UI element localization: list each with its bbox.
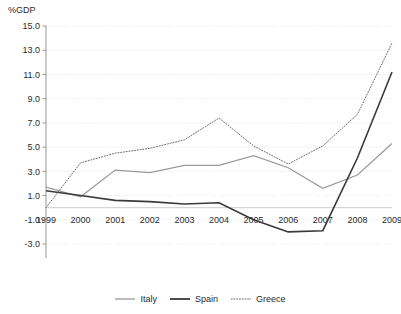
- line-chart: %GDP -3.0-1.01.03.05.07.09.011.013.015.0…: [0, 0, 401, 314]
- data-series: [46, 43, 392, 232]
- plot-area: -3.0-1.01.03.05.07.09.011.013.015.0 1999…: [0, 0, 401, 314]
- y-tick-label: 5.0: [27, 142, 40, 152]
- x-tick-label: 2002: [140, 215, 160, 225]
- legend-swatch-italy-icon: [115, 295, 135, 303]
- y-tick-label: 15.0: [22, 21, 40, 31]
- legend-item-spain[interactable]: Spain: [170, 294, 218, 304]
- y-tick-label: 9.0: [27, 94, 40, 104]
- y-tick-label: 11.0: [23, 70, 40, 80]
- x-tick-label: 2004: [209, 215, 229, 225]
- y-tick-label: 3.0: [27, 167, 40, 177]
- legend-swatch-greece-icon: [231, 295, 251, 303]
- x-tick-label: 2006: [278, 215, 298, 225]
- legend-item-greece[interactable]: Greece: [231, 294, 286, 304]
- x-tick-label: 2000: [71, 215, 91, 225]
- legend-item-italy[interactable]: Italy: [115, 294, 157, 304]
- legend-swatch-spain-icon: [170, 295, 190, 303]
- y-tick-label: 1.0: [27, 191, 40, 201]
- gridlines: [46, 26, 392, 244]
- y-tick-label: 13.0: [22, 45, 40, 55]
- legend-label-italy: Italy: [140, 294, 157, 304]
- chart-legend: ItalySpainGreece: [0, 294, 401, 304]
- y-tick-label: -3.0: [24, 239, 40, 249]
- x-tick-label: 2001: [105, 215, 125, 225]
- legend-label-greece: Greece: [256, 294, 286, 304]
- series-line-italy: [46, 143, 392, 196]
- y-tick-label: 7.0: [27, 118, 40, 128]
- x-tick-label: 2003: [174, 215, 194, 225]
- x-tick-label: 2008: [347, 215, 367, 225]
- legend-label-spain: Spain: [195, 294, 218, 304]
- x-tick-label: 2009: [382, 215, 401, 225]
